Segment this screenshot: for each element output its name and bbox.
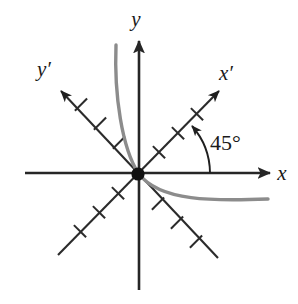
angle-arc-group: 45°: [192, 126, 241, 173]
y-axis-group: y: [129, 7, 141, 290]
origin-dot: [131, 167, 144, 180]
y-prime-axis-group: y′: [35, 57, 218, 258]
angle-label: 45°: [210, 130, 241, 155]
tick-y-prime-neg-1: [152, 198, 164, 210]
tick-y-prime-2: [94, 118, 106, 130]
x-prime-axis-label: x′: [218, 61, 233, 85]
tick-y-prime-neg-3: [190, 236, 202, 248]
x-prime-axis-group: x′: [58, 61, 233, 255]
tick-y-prime-neg-2: [171, 217, 183, 229]
x-axis-label: x: [276, 161, 287, 185]
figure-container: x y x′: [0, 0, 298, 304]
y-axis-label: y: [129, 7, 141, 31]
x-axis-group: x: [25, 161, 287, 185]
y-prime-axis-label: y′: [35, 57, 51, 81]
tick-y-prime-3: [75, 99, 87, 111]
angle-arc: [192, 126, 210, 173]
coordinate-diagram: x y x′: [0, 0, 298, 304]
